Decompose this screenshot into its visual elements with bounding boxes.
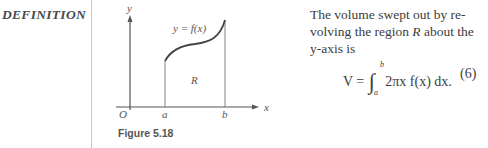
curve-label: y = f(x) [173, 22, 206, 34]
region-symbol: R [412, 24, 420, 39]
figure-diagram [110, 0, 310, 148]
volume-equation: V = ∫ba 2πx f(x) dx. [343, 66, 452, 92]
figure: y x O a b y = f(x) R [110, 0, 310, 148]
integrand: 2πx f(x) dx. [385, 74, 452, 89]
y-axis-label: y [127, 2, 132, 14]
equation-lhs: V = [343, 74, 364, 89]
region-label: R [191, 74, 198, 86]
equation-number: (6) [460, 66, 476, 82]
text-line-2: volving the region R about the [310, 23, 488, 40]
text-segment: about the [421, 24, 474, 39]
x-axis-label: x [264, 101, 269, 113]
definition-label: DEFINITION [2, 7, 86, 23]
text-line-3: y-axis is [310, 40, 488, 57]
lower-limit: a [374, 88, 378, 97]
definition-text: The volume swept out by re- volving the … [310, 6, 488, 57]
text-line-1: The volume swept out by re- [310, 6, 488, 23]
origin-label: O [119, 108, 127, 120]
a-label: a [162, 108, 168, 120]
text-segment: volving the region [310, 24, 412, 39]
figure-caption: Figure 5.18 [118, 127, 173, 139]
upper-limit: b [380, 60, 384, 69]
b-label: b [222, 108, 228, 120]
vertical-divider [91, 0, 92, 148]
